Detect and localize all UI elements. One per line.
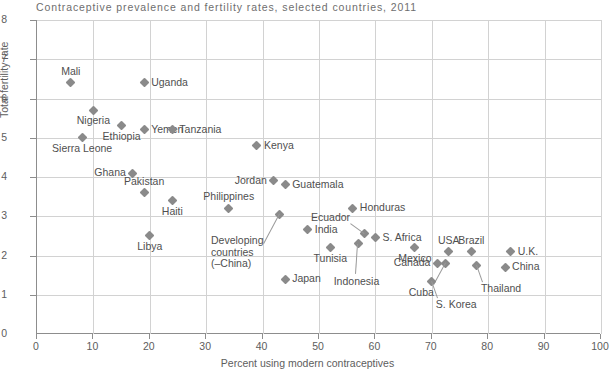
- data-point-label: Uganda: [151, 77, 188, 89]
- data-point-label: Ecuador: [311, 212, 350, 224]
- data-point-label: Ethiopia: [103, 131, 141, 143]
- x-axis-tick-mark: [374, 334, 375, 339]
- plot-area: MaliUgandaNigeriaEthiopiaYemenTanzaniaSi…: [36, 20, 600, 334]
- x-axis-tick-mark: [205, 334, 206, 339]
- data-point-label: Jordan: [235, 175, 267, 187]
- x-axis-tick-mark: [92, 334, 93, 339]
- data-point-label: China: [512, 262, 539, 274]
- data-point-label: Kenya: [264, 140, 294, 152]
- data-point-marker: [139, 125, 149, 135]
- data-point-label: S. Africa: [382, 232, 421, 244]
- data-point-label: USA: [438, 235, 460, 247]
- data-point-label: Brazil: [458, 235, 484, 247]
- x-axis-tick-label: 30: [185, 340, 225, 352]
- gridline-vertical: [601, 20, 602, 334]
- x-axis-tick-mark: [600, 334, 601, 339]
- x-axis-tick-label: 60: [354, 340, 394, 352]
- data-point-label: Libya: [137, 241, 162, 253]
- scatter-chart: Contraceptive prevalence and fertility r…: [0, 0, 615, 371]
- data-point-label: Cuba: [409, 288, 434, 300]
- gridline-vertical: [319, 20, 320, 334]
- x-axis-tick-label: 50: [298, 340, 338, 352]
- data-point-label: Haiti: [162, 206, 183, 218]
- data-point-label: Philippines: [203, 192, 254, 204]
- data-point-marker: [252, 141, 262, 151]
- label-leader-line: [263, 214, 280, 244]
- data-point-label: Tunisia: [314, 253, 347, 265]
- chart-title: Contraceptive prevalence and fertility r…: [36, 1, 417, 13]
- gridline-vertical: [206, 20, 207, 334]
- x-axis-label: Percent using modern contraceptives: [0, 357, 615, 369]
- y-axis-tick-label: 2: [0, 249, 7, 261]
- data-point-label: Guatemala: [292, 179, 343, 191]
- label-leader-line: [350, 223, 365, 234]
- x-axis-tick-mark: [36, 334, 37, 339]
- x-axis-tick-mark: [431, 334, 432, 339]
- y-axis-tick-label: 0: [0, 327, 7, 339]
- data-point-marker: [303, 225, 313, 235]
- data-point-label: Mali: [61, 66, 80, 78]
- x-axis-tick-label: 90: [524, 340, 564, 352]
- y-axis-tick-label: 6: [0, 92, 7, 104]
- x-axis-tick-label: 10: [72, 340, 112, 352]
- y-axis-tick-label: 8: [0, 13, 7, 25]
- y-axis-tick-label: 4: [0, 170, 7, 182]
- data-point-label: Honduras: [360, 203, 406, 215]
- data-point-label: Pakistan: [124, 176, 164, 188]
- x-axis-tick-mark: [149, 334, 150, 339]
- data-point-label: U.K.: [518, 246, 538, 258]
- x-axis-tick-label: 40: [242, 340, 282, 352]
- data-point-label: S. Korea: [436, 299, 477, 311]
- x-axis-tick-label: 70: [411, 340, 451, 352]
- gridline-vertical: [545, 20, 546, 334]
- x-axis-tick-label: 0: [16, 340, 56, 352]
- data-point-label: Indonesia: [334, 276, 380, 288]
- y-axis-tick-label: 5: [0, 131, 7, 143]
- data-point-marker: [500, 262, 510, 272]
- data-point-marker: [354, 239, 364, 249]
- x-axis-tick-mark: [487, 334, 488, 339]
- y-axis-tick-label: 1: [0, 288, 7, 300]
- data-point-label: Sierra Leone: [52, 143, 112, 155]
- data-point-marker: [139, 188, 149, 198]
- y-axis-tick-label: 7: [0, 52, 7, 64]
- data-point-label: India: [315, 224, 338, 236]
- data-point-marker: [139, 78, 149, 88]
- data-point-label: Canada: [394, 258, 431, 270]
- data-point-label: Japan: [292, 273, 321, 285]
- data-point-label: Nigeria: [77, 116, 110, 128]
- y-axis-tick-label: 3: [0, 209, 7, 221]
- x-axis-tick-label: 20: [129, 340, 169, 352]
- data-point-label: Developingcountries(–China): [211, 235, 264, 270]
- data-point-marker: [370, 233, 380, 243]
- label-leader-line: [476, 265, 483, 282]
- data-point-label: Tanzania: [179, 124, 221, 136]
- data-point-label: Thailand: [481, 284, 521, 296]
- data-point-marker: [280, 274, 290, 284]
- data-point-marker: [66, 78, 76, 88]
- x-axis-tick-mark: [318, 334, 319, 339]
- x-axis-tick-mark: [262, 334, 263, 339]
- x-axis-tick-mark: [544, 334, 545, 339]
- data-point-marker: [280, 180, 290, 190]
- x-axis-tick-label: 100: [580, 340, 615, 352]
- x-axis-tick-label: 80: [467, 340, 507, 352]
- data-point-marker: [224, 203, 234, 213]
- data-point-label: Ghana: [94, 167, 126, 179]
